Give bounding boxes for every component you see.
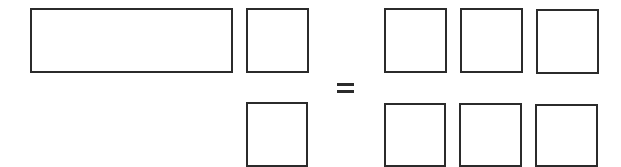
small-square-top xyxy=(246,8,309,73)
grid-box-r2c2 xyxy=(459,103,522,167)
grid-box-r2c3 xyxy=(535,104,598,167)
equals-sign xyxy=(337,83,354,94)
grid-box-r1c1 xyxy=(384,8,447,73)
long-rectangle-box xyxy=(30,8,233,73)
grid-box-r1c2 xyxy=(460,8,523,73)
grid-box-r1c3 xyxy=(536,9,599,74)
small-square-bottom xyxy=(246,102,308,167)
grid-box-r2c1 xyxy=(384,103,446,167)
